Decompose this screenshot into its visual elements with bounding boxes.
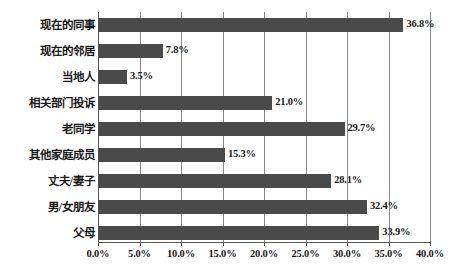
bar: [98, 18, 403, 32]
bar-value-label: 36.8%: [406, 16, 434, 32]
category-label-slot: 丈夫/妻子: [0, 168, 98, 194]
x-axis-tick-labels: 0.0%5.0%10.0%15.0%20.0%25.0%30.0%35.0%40…: [0, 248, 456, 268]
x-tick-label: 10.0%: [167, 248, 195, 259]
bar: [98, 70, 127, 84]
category-label-slot: 男/女朋友: [0, 194, 98, 220]
category-label: 父母: [6, 220, 98, 246]
gridline-40.0: [430, 12, 431, 242]
bar-row: 3.5%: [98, 64, 430, 90]
category-label: 当地人: [6, 64, 98, 90]
x-tick-mark: [430, 242, 431, 246]
bar-value-label: 32.4%: [370, 198, 398, 214]
bar-chart: 现在的同事现在的邻居当地人相关部门投诉老同学其他家庭成员丈夫/妻子男/女朋友父母…: [0, 0, 456, 276]
x-tick-mark: [347, 242, 348, 246]
category-label-slot: 现在的同事: [0, 12, 98, 38]
category-label: 男/女朋友: [6, 194, 98, 220]
bar-value-label: 3.5%: [130, 68, 153, 84]
category-label-slot: 现在的邻居: [0, 38, 98, 64]
bar-value-label: 28.1%: [334, 172, 362, 188]
bar-row: 32.4%: [98, 194, 430, 220]
category-label-slot: 当地人: [0, 64, 98, 90]
x-tick-mark: [223, 242, 224, 246]
category-label-slot: 老同学: [0, 116, 98, 142]
bar-value-label: 29.7%: [348, 120, 376, 136]
category-label: 现在的同事: [6, 12, 98, 38]
x-tick-mark: [306, 242, 307, 246]
bar: [98, 226, 379, 240]
x-tick-mark: [181, 242, 182, 246]
bar-row: 15.3%: [98, 142, 430, 168]
x-tick-label: 40.0%: [416, 248, 444, 259]
bar: [98, 122, 345, 136]
category-label-slot: 父母: [0, 220, 98, 246]
x-tick-label: 20.0%: [250, 248, 278, 259]
category-label-slot: 其他家庭成员: [0, 142, 98, 168]
x-tick-mark: [140, 242, 141, 246]
bar-row: 36.8%: [98, 12, 430, 38]
x-tick-label: 5.0%: [128, 248, 151, 259]
bar-row: 7.8%: [98, 38, 430, 64]
category-label: 相关部门投诉: [6, 90, 98, 116]
x-tick-label: 15.0%: [209, 248, 237, 259]
bar: [98, 148, 225, 162]
bar-row: 29.7%: [98, 116, 430, 142]
x-tick-label: 25.0%: [292, 248, 320, 259]
x-tick-mark: [98, 242, 99, 246]
category-label: 其他家庭成员: [6, 142, 98, 168]
bar-value-label: 7.8%: [166, 42, 189, 58]
category-label: 现在的邻居: [6, 38, 98, 64]
category-label: 老同学: [6, 116, 98, 142]
bar-row: 28.1%: [98, 168, 430, 194]
category-axis: 现在的同事现在的邻居当地人相关部门投诉老同学其他家庭成员丈夫/妻子男/女朋友父母: [0, 12, 98, 242]
plot-area: 36.8%7.8%3.5%21.0%29.7%15.3%28.1%32.4%33…: [98, 12, 430, 242]
bar: [98, 200, 367, 214]
x-tick-label: 35.0%: [375, 248, 403, 259]
x-tick-mark: [389, 242, 390, 246]
x-tick-label: 0.0%: [87, 248, 110, 259]
x-tick-mark: [264, 242, 265, 246]
bar-value-label: 15.3%: [228, 146, 256, 162]
bar-row: 21.0%: [98, 90, 430, 116]
bar: [98, 174, 331, 188]
bar: [98, 96, 272, 110]
category-label: 丈夫/妻子: [6, 168, 98, 194]
category-label-slot: 相关部门投诉: [0, 90, 98, 116]
bar: [98, 44, 163, 58]
x-tick-label: 30.0%: [333, 248, 361, 259]
bar-value-label: 33.9%: [382, 224, 410, 240]
bar-value-label: 21.0%: [275, 94, 303, 110]
